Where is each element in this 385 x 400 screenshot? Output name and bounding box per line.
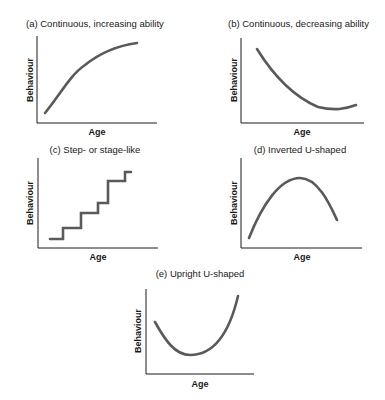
panel-e: (e) Upright U-shaped Age Behaviour (133, 268, 254, 389)
panel-c-title: (c) Step- or stage-like (50, 144, 141, 155)
panel-b-xlabel: Age (293, 127, 310, 137)
panel-c: (c) Step- or stage-like Age Behaviour (25, 144, 158, 262)
panel-a-title: (a) Continuous, increasing ability (26, 18, 164, 29)
developmental-trajectories-diagram: (a) Continuous, increasing ability Age B… (0, 0, 385, 400)
panel-b: (b) Continuous, decreasing ability Age B… (228, 18, 369, 137)
panel-b-title: (b) Continuous, decreasing ability (228, 18, 369, 29)
panel-d-curve (249, 178, 337, 238)
panel-a-xlabel: Age (88, 127, 105, 137)
panel-e-curve (155, 296, 238, 355)
panel-b-curve (257, 49, 356, 109)
panel-d-ylabel: Behaviour (229, 180, 239, 225)
panel-a-curve (45, 43, 137, 113)
panel-c-ylabel: Behaviour (25, 180, 35, 225)
panel-d: (d) Inverted U-shaped Age Behaviour (229, 144, 362, 262)
panel-d-axes (241, 158, 362, 248)
panel-b-ylabel: Behaviour (229, 57, 239, 102)
panel-e-ylabel: Behaviour (133, 308, 143, 353)
panel-d-title: (d) Inverted U-shaped (254, 144, 346, 155)
panel-d-xlabel: Age (293, 252, 310, 262)
panel-e-xlabel: Age (191, 379, 208, 389)
panel-a-ylabel: Behaviour (25, 57, 35, 102)
panel-c-xlabel: Age (89, 252, 106, 262)
panel-c-curve (50, 172, 131, 239)
panel-a-axes (37, 36, 157, 123)
panel-a: (a) Continuous, increasing ability Age B… (25, 18, 164, 137)
panel-e-title: (e) Upright U-shaped (156, 268, 245, 279)
